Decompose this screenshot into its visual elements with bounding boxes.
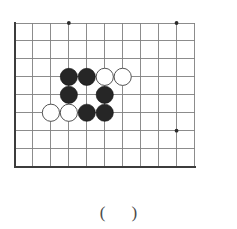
go-board-canvas: [0, 0, 237, 195]
answer-blank[interactable]: ( ): [0, 196, 237, 229]
white-stone[interactable]: [96, 68, 113, 85]
black-stone[interactable]: [96, 104, 113, 121]
black-stone[interactable]: [78, 68, 95, 85]
star-point: [67, 21, 71, 25]
close-paren: ): [132, 204, 138, 221]
white-stone[interactable]: [60, 104, 77, 121]
black-stone[interactable]: [60, 86, 77, 103]
white-stone[interactable]: [42, 104, 59, 121]
star-point: [175, 21, 179, 25]
black-stone[interactable]: [96, 86, 113, 103]
white-stone[interactable]: [114, 68, 131, 85]
black-stone[interactable]: [78, 104, 95, 121]
black-stone[interactable]: [60, 68, 77, 85]
answer-gap[interactable]: [106, 212, 132, 213]
star-point: [175, 129, 179, 133]
go-board: [0, 0, 237, 195]
diagram-page: ( ): [0, 0, 237, 229]
